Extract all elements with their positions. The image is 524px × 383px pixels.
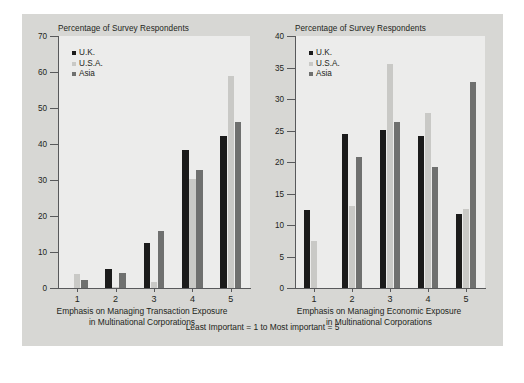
- legend-item-asia: Asia: [72, 69, 103, 80]
- x-axis-tick-label: 1: [311, 294, 316, 304]
- chart-axis-title: Percentage of Survey Respondents: [295, 24, 426, 33]
- bar-usa-cat-5: [228, 76, 235, 288]
- x-axis-tick: 5: [231, 288, 232, 292]
- y-axis-tick: 0: [287, 288, 295, 289]
- bar-uk-cat-3: [144, 243, 151, 288]
- bar-usa-cat-1: [74, 274, 81, 288]
- legend-label-asia: Asia: [79, 69, 95, 80]
- x-axis-tick: 2: [352, 288, 353, 292]
- x-axis-tick-label: 3: [151, 294, 156, 304]
- legend-item-uk: U.K.: [72, 48, 103, 59]
- chart-panel-economic-exposure: Percentage of Survey Respondents 0510152…: [265, 22, 493, 340]
- x-axis-tick-label: 3: [387, 294, 392, 304]
- legend-label-usa: U.S.A.: [316, 59, 340, 70]
- bar-asia-cat-2: [119, 273, 126, 288]
- bar-group: [265, 36, 493, 288]
- bar-asia-cat-3: [158, 231, 165, 288]
- x-axis-tick-label: 5: [463, 294, 468, 304]
- x-axis-tick-label: 5: [228, 294, 233, 304]
- x-axis-tick: 4: [428, 288, 429, 292]
- legend: U.K. U.S.A. Asia: [72, 48, 103, 80]
- chart-panel-transaction-exposure: Percentage of Survey Respondents 0102030…: [28, 22, 256, 340]
- bar-uk-cat-4: [418, 136, 425, 288]
- legend-label-uk: U.K.: [79, 48, 95, 59]
- bar-uk-cat-3: [380, 130, 387, 288]
- x-axis-tick: 1: [314, 288, 315, 292]
- bar-group: [28, 36, 256, 288]
- x-axis-label-line1: Emphasis on Managing Economic Exposure: [265, 306, 493, 317]
- bar-usa-cat-3: [151, 282, 158, 288]
- bar-asia-cat-5: [470, 82, 477, 288]
- bar-asia-cat-4: [196, 170, 203, 288]
- bar-usa-cat-5: [463, 209, 470, 288]
- legend-label-usa: U.S.A.: [79, 59, 103, 70]
- legend-label-uk: U.K.: [316, 48, 332, 59]
- bar-usa-cat-1: [311, 241, 318, 288]
- x-axis-tick-label: 4: [190, 294, 195, 304]
- legend-label-asia: Asia: [316, 69, 332, 80]
- bar-asia-cat-4: [432, 167, 439, 288]
- legend-item-usa: U.S.A.: [309, 59, 340, 70]
- bar-asia-cat-3: [394, 122, 401, 288]
- legend-swatch-usa-icon: [309, 62, 313, 66]
- chart-axis-title: Percentage of Survey Respondents: [58, 24, 189, 33]
- legend-swatch-uk-icon: [309, 51, 313, 55]
- x-axis-tick: 3: [390, 288, 391, 292]
- bar-usa-cat-2: [349, 206, 356, 288]
- x-axis-label-line1: Emphasis on Managing Transaction Exposur…: [28, 306, 256, 317]
- bar-uk-cat-2: [105, 269, 112, 288]
- x-axis-tick: 2: [116, 288, 117, 292]
- legend-swatch-uk-icon: [72, 51, 76, 55]
- legend-item-asia: Asia: [309, 69, 340, 80]
- bar-uk-cat-5: [456, 214, 463, 288]
- x-axis-line: 12345: [295, 288, 486, 289]
- x-axis-tick: 3: [154, 288, 155, 292]
- bar-uk-cat-5: [220, 136, 227, 288]
- x-axis-line: 12345: [58, 288, 251, 289]
- x-axis-tick-label: 4: [425, 294, 430, 304]
- legend: U.K. U.S.A. Asia: [309, 48, 340, 80]
- bar-uk-cat-4: [182, 150, 189, 288]
- figure-caption: Least Important = 1 to Most important = …: [22, 322, 503, 332]
- bar-uk-cat-2: [342, 134, 349, 288]
- x-axis-tick-label: 2: [113, 294, 118, 304]
- x-axis-tick-label: 2: [349, 294, 354, 304]
- bar-usa-cat-4: [189, 179, 196, 288]
- legend-item-uk: U.K.: [309, 48, 340, 59]
- legend-swatch-asia-icon: [72, 72, 76, 76]
- y-axis-tick: 0: [50, 288, 58, 289]
- bar-uk-cat-1: [304, 210, 311, 288]
- bar-asia-cat-1: [81, 280, 88, 288]
- legend-swatch-asia-icon: [309, 72, 313, 76]
- bar-usa-cat-3: [387, 64, 394, 288]
- legend-item-usa: U.S.A.: [72, 59, 103, 70]
- bar-usa-cat-4: [425, 113, 432, 288]
- legend-swatch-usa-icon: [72, 62, 76, 66]
- bar-asia-cat-5: [235, 122, 242, 288]
- x-axis-tick: 5: [466, 288, 467, 292]
- x-axis-tick-label: 1: [75, 294, 80, 304]
- bar-asia-cat-2: [356, 157, 363, 288]
- x-axis-tick: 4: [192, 288, 193, 292]
- bar-usa-cat-2: [112, 287, 119, 288]
- figure-container: Percentage of Survey Respondents 0102030…: [22, 14, 503, 346]
- x-axis-tick: 1: [77, 288, 78, 292]
